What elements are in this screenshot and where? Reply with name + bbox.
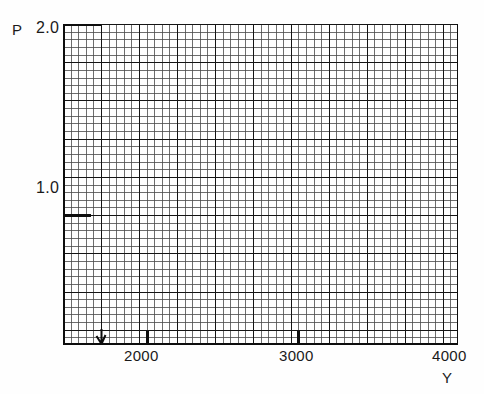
y-tick-label-2-0: 2.0 (36, 20, 59, 36)
figure-canvas: P 2.0 1.0 2000 3000 4000 Y (0, 0, 484, 394)
y-axis-label: Y (442, 370, 452, 385)
grid-svg (63, 24, 458, 345)
p-axis-label: P (12, 22, 22, 37)
x-tick-label-3000: 3000 (279, 348, 314, 363)
x-tick-label-4000: 4000 (432, 348, 467, 363)
y-tick-label-1-0: 1.0 (36, 180, 59, 196)
plot-area (63, 24, 458, 345)
x-tick-label-2000: 2000 (124, 348, 159, 363)
